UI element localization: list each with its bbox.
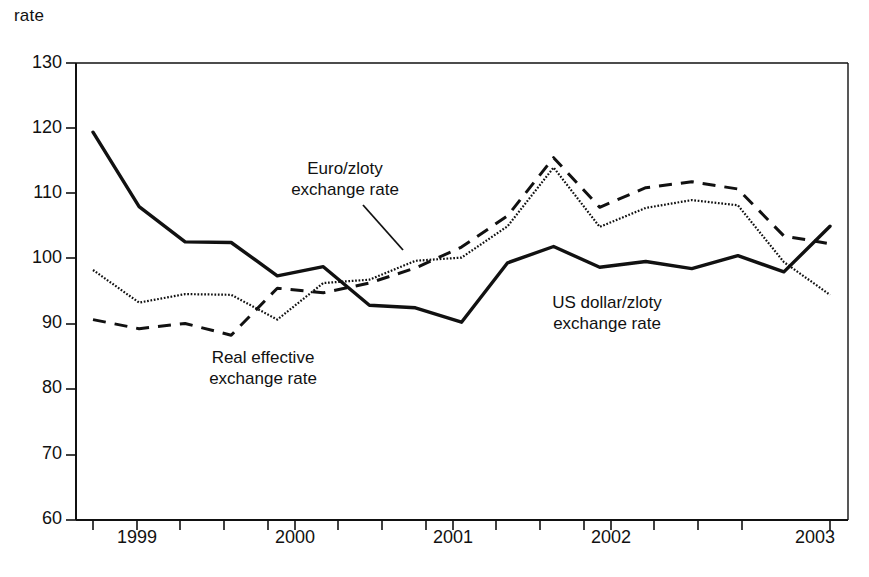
axes: [76, 63, 848, 520]
chart-figure: rate 130 120 110 100 90 80 70 60 1999 20…: [0, 0, 869, 577]
series-line-real-effective: [93, 158, 830, 336]
annotation-leader-euro-zloty: [363, 205, 403, 250]
x-axis-ticks: [93, 520, 830, 530]
y-axis-ticks: [66, 63, 76, 520]
series-line-us-dollar-zloty: [93, 132, 830, 322]
chart-canvas: [0, 0, 869, 577]
